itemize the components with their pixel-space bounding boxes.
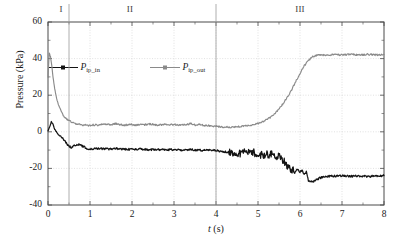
x-axis-title: t (s) [186, 223, 246, 234]
figure-container: I II III Pressure (kPa) Pip_in Pip_out t… [0, 0, 398, 244]
x-tick-label: 6 [290, 209, 310, 219]
y-tick-label: 0 [20, 126, 42, 136]
x-tick-label: 2 [122, 209, 142, 219]
x-tick-label: 7 [332, 209, 352, 219]
x-axis-title-unit: (s) [211, 223, 224, 234]
x-tick-label: 8 [374, 209, 394, 219]
y-tick-label: -40 [20, 199, 42, 209]
y-tick-label: 60 [20, 16, 42, 26]
y-tick-label: 20 [20, 89, 42, 99]
y-tick-label: -20 [20, 162, 42, 172]
y-tick-label: 40 [20, 53, 42, 63]
x-tick-label: 0 [38, 209, 58, 219]
x-tick-label: 1 [80, 209, 100, 219]
x-tick-label: 4 [206, 209, 226, 219]
x-tick-label: 3 [164, 209, 184, 219]
x-tick-label: 5 [248, 209, 268, 219]
plot-canvas [0, 0, 398, 244]
